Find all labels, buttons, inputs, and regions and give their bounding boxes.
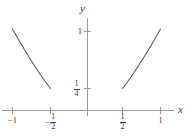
fraction-one-half: 1 2 <box>50 113 56 131</box>
fraction-numerator: 1 <box>120 113 126 122</box>
graph-figure: x y −1 − 1 2 1 2 1 1 1 4 <box>0 0 191 136</box>
fraction-one-quarter: 1 4 <box>74 80 80 98</box>
neg-half-fraction: − 1 2 <box>45 113 56 131</box>
x-axis-label: x <box>178 104 183 115</box>
x-tick-label-half: 1 2 <box>114 113 131 131</box>
fraction-denominator: 2 <box>50 123 56 132</box>
fraction-numerator: 1 <box>50 113 56 122</box>
x-tick-label-neg-half: − 1 2 <box>41 113 60 131</box>
fraction-one-half: 1 2 <box>120 113 126 131</box>
curve-right-branch <box>123 29 161 89</box>
fraction-numerator: 1 <box>74 80 80 89</box>
fraction-denominator: 4 <box>74 90 80 99</box>
x-tick-label-1: 1 <box>155 116 166 125</box>
fraction-denominator: 2 <box>120 123 126 132</box>
curve-left-branch <box>13 29 51 89</box>
y-tick-label-1: 1 <box>72 27 82 36</box>
y-tick-label-quarter: 1 4 <box>70 80 83 98</box>
x-tick-label-neg1: −1 <box>6 116 19 125</box>
y-axis-label: y <box>80 3 85 14</box>
